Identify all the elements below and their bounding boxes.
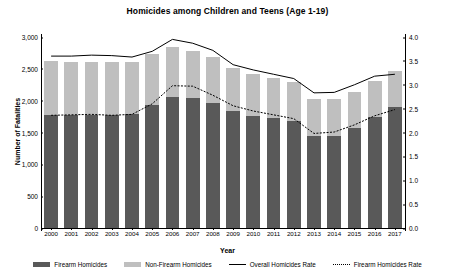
- x-tick-label: 2010: [242, 230, 264, 237]
- bar-segment-non-firearm[interactable]: [186, 51, 200, 98]
- bar-column[interactable]: [246, 74, 260, 228]
- bar-segment-non-firearm[interactable]: [226, 68, 240, 111]
- x-tick-label: 2002: [81, 230, 103, 237]
- bar-segment-non-firearm[interactable]: [125, 62, 139, 114]
- bar-segment-firearm[interactable]: [307, 136, 321, 228]
- legend-item[interactable]: Firearm Homicides Rate: [333, 261, 422, 268]
- x-tick-label: 2006: [161, 230, 183, 237]
- tick-mark: [403, 109, 405, 110]
- y-tick-left: 500: [27, 193, 41, 200]
- y-tick-right: 3.0: [405, 81, 418, 88]
- bar-column[interactable]: [44, 61, 58, 228]
- bar-column[interactable]: [186, 51, 200, 228]
- tick-mark: [403, 61, 405, 62]
- x-tick-label: 2011: [263, 230, 285, 237]
- legend-label: Non-Firearm Homicides: [145, 261, 211, 268]
- x-tick-label: 2004: [121, 230, 143, 237]
- bar-segment-non-firearm[interactable]: [348, 92, 362, 128]
- bar-column[interactable]: [388, 71, 402, 228]
- x-tick-label: 2017: [384, 230, 406, 237]
- x-tick-label: 2008: [202, 230, 224, 237]
- bar-segment-non-firearm[interactable]: [267, 78, 281, 118]
- tick-mark: [41, 37, 43, 38]
- bar-segment-firearm[interactable]: [125, 114, 139, 228]
- x-axis-line: [41, 228, 406, 229]
- tick-mark: [41, 164, 43, 165]
- bar-column[interactable]: [85, 62, 99, 228]
- bar-segment-non-firearm[interactable]: [85, 62, 99, 115]
- bar-segment-non-firearm[interactable]: [327, 99, 341, 136]
- bar-column[interactable]: [64, 62, 78, 228]
- legend-label: Firearm Homicides Rate: [354, 261, 422, 268]
- bar-segment-firearm[interactable]: [267, 118, 281, 228]
- bar-segment-non-firearm[interactable]: [44, 61, 58, 115]
- bar-segment-non-firearm[interactable]: [206, 57, 220, 102]
- bar-column[interactable]: [307, 99, 321, 228]
- x-tick-label: 2016: [364, 230, 386, 237]
- legend-item[interactable]: Firearm Homicides: [33, 261, 107, 268]
- bar-column[interactable]: [125, 62, 139, 228]
- plot-area: 05001,0001,5002,0002,5003,000 0.00.51.01…: [41, 37, 405, 228]
- bar-column[interactable]: [368, 81, 382, 228]
- bar-segment-non-firearm[interactable]: [246, 74, 260, 116]
- bar-segment-non-firearm[interactable]: [368, 81, 382, 117]
- bar-segment-non-firearm[interactable]: [166, 47, 180, 97]
- tick-mark: [403, 180, 405, 181]
- bar-segment-firearm[interactable]: [368, 117, 382, 228]
- y-tick-right: 3.5: [405, 57, 418, 64]
- bar-segment-non-firearm[interactable]: [145, 54, 159, 104]
- legend-swatch-firearm-rate: [333, 264, 350, 265]
- bar-segment-non-firearm[interactable]: [105, 62, 119, 115]
- tick-mark: [41, 228, 43, 229]
- y-tick-right: 1.0: [405, 177, 418, 184]
- tick-mark: [403, 37, 405, 38]
- legend-item[interactable]: Non-Firearm Homicides: [124, 261, 211, 268]
- x-tick-label: 2014: [323, 230, 345, 237]
- bar-segment-firearm[interactable]: [226, 111, 240, 228]
- bar-column[interactable]: [267, 78, 281, 228]
- tick-mark: [403, 228, 405, 229]
- bar-segment-firearm[interactable]: [64, 115, 78, 228]
- bar-segment-non-firearm[interactable]: [287, 82, 301, 121]
- x-tick-label: 2007: [182, 230, 204, 237]
- x-tick-label: 2012: [283, 230, 305, 237]
- bar-segment-firearm[interactable]: [388, 107, 402, 228]
- bar-segment-firearm[interactable]: [145, 105, 159, 229]
- legend-label: Firearm Homicides: [54, 261, 107, 268]
- legend-swatch-firearm: [33, 262, 50, 267]
- x-tick-label: 2003: [101, 230, 123, 237]
- bar-segment-firearm[interactable]: [166, 97, 180, 228]
- bar-segment-non-firearm[interactable]: [64, 62, 78, 115]
- legend-swatch-overall-rate: [229, 264, 246, 265]
- bar-column[interactable]: [206, 57, 220, 228]
- bar-segment-firearm[interactable]: [105, 115, 119, 228]
- x-tick-label: 2005: [141, 230, 163, 237]
- bar-column[interactable]: [348, 92, 362, 228]
- bar-segment-firearm[interactable]: [246, 116, 260, 228]
- line-firearm-rate: [51, 86, 395, 134]
- chart-title: Homicides among Children and Teens (Age …: [0, 6, 455, 16]
- bar-segment-firearm[interactable]: [348, 128, 362, 228]
- x-tick-label: 2001: [60, 230, 82, 237]
- legend-item[interactable]: Overall Homicides Rate: [229, 261, 316, 268]
- bar-column[interactable]: [145, 54, 159, 228]
- bar-column[interactable]: [327, 99, 341, 228]
- x-tick-label: 2013: [303, 230, 325, 237]
- bar-segment-firearm[interactable]: [85, 115, 99, 228]
- bar-segment-firearm[interactable]: [206, 103, 220, 228]
- bar-column[interactable]: [105, 62, 119, 228]
- bar-column[interactable]: [287, 82, 301, 228]
- bar-segment-firearm[interactable]: [287, 121, 301, 228]
- tick-mark: [41, 101, 43, 102]
- chart-container: Homicides among Children and Teens (Age …: [0, 0, 455, 278]
- bar-column[interactable]: [226, 68, 240, 228]
- x-axis-label: Year: [0, 247, 455, 254]
- bar-segment-firearm[interactable]: [44, 115, 58, 228]
- bar-segment-non-firearm[interactable]: [307, 99, 321, 136]
- bar-segment-firearm[interactable]: [327, 136, 341, 228]
- tick-mark: [403, 156, 405, 157]
- bar-segment-non-firearm[interactable]: [388, 71, 402, 107]
- bar-column[interactable]: [166, 47, 180, 228]
- y-tick-right: 2.0: [405, 129, 418, 136]
- bar-segment-firearm[interactable]: [186, 98, 200, 228]
